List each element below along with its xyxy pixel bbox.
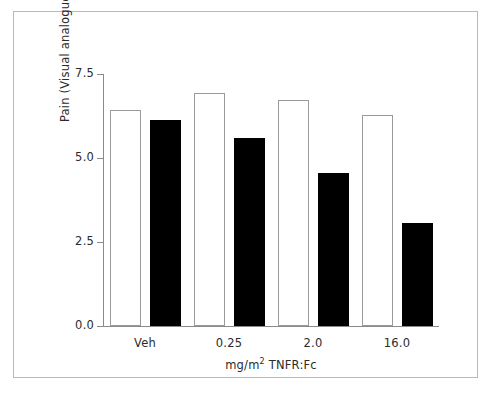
y-axis-tick-mark bbox=[97, 74, 103, 75]
bar-filled-160 bbox=[402, 223, 433, 326]
y-axis-line bbox=[103, 74, 104, 326]
bar-filled-20 bbox=[318, 173, 349, 326]
y-axis-title: Pain (Visual analogue) bbox=[58, 0, 72, 122]
figure-border: Pain (Visual analogue) 0.02.55.07.5 Veh0… bbox=[13, 11, 478, 378]
x-axis-title-suffix: TNFR:Fc bbox=[265, 358, 317, 372]
bar-open-160 bbox=[362, 115, 393, 326]
y-axis-tick-mark bbox=[97, 326, 103, 327]
bar-open-025 bbox=[194, 93, 225, 326]
y-axis-tick-label: 5.0 bbox=[75, 150, 94, 164]
bar-filled-025 bbox=[234, 138, 265, 326]
plot-area: 0.02.55.07.5 Veh0.252.016.0 mg/m2 TNFR:F… bbox=[103, 62, 439, 326]
y-axis-tick-label: 7.5 bbox=[75, 66, 94, 80]
x-axis-tick-label-160: 16.0 bbox=[355, 336, 439, 350]
x-axis-title: mg/m2 TNFR:Fc bbox=[103, 358, 439, 372]
y-axis-tick-label: 0.0 bbox=[75, 318, 94, 332]
y-axis-tick-mark bbox=[97, 158, 103, 159]
x-axis-tick-label-Veh: Veh bbox=[103, 336, 187, 350]
x-axis-tick-label-025: 0.25 bbox=[187, 336, 271, 350]
figure-canvas: Pain (Visual analogue) 0.02.55.07.5 Veh0… bbox=[0, 0, 492, 393]
y-axis-tick-mark bbox=[97, 242, 103, 243]
bar-open-Veh bbox=[110, 110, 141, 326]
x-axis-line bbox=[103, 326, 439, 327]
x-axis-title-prefix: mg/m bbox=[225, 358, 259, 372]
x-axis-tick-label-20: 2.0 bbox=[271, 336, 355, 350]
bar-filled-Veh bbox=[150, 120, 181, 326]
bar-open-20 bbox=[278, 100, 309, 326]
y-axis-tick-label: 2.5 bbox=[75, 234, 94, 248]
